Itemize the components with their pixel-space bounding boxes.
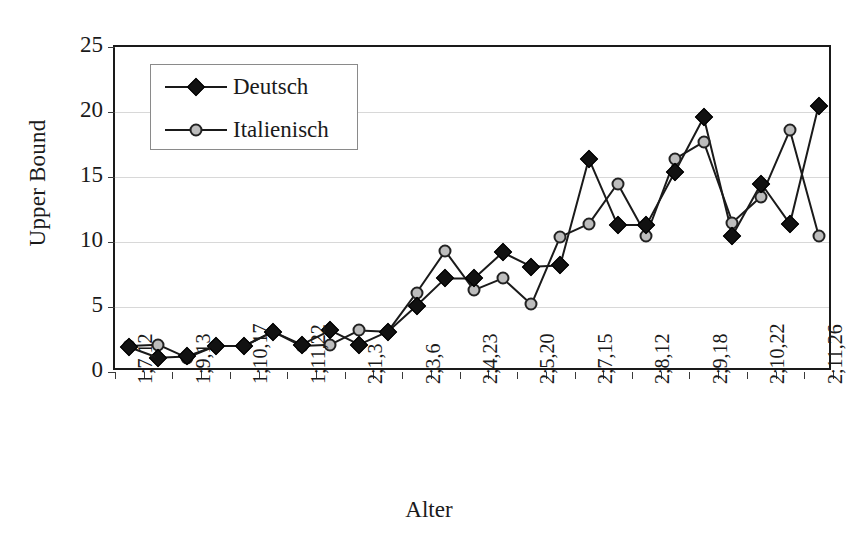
y-tick-label-10: 10 [57, 228, 103, 251]
legend-swatch-deutsch [165, 77, 227, 97]
x-tick-mark [287, 372, 288, 379]
x-tick-label-10: 2;9,18 [710, 333, 730, 384]
y-tick-label-5: 5 [57, 293, 103, 316]
line-chart: Upper Bound 0510152025 1;7,121;9,131;10,… [0, 0, 858, 543]
legend-label-deutsch: Deutsch [233, 75, 308, 98]
x-tick-label-4: 2;1,3 [365, 343, 385, 384]
x-tick-mark [517, 372, 518, 379]
x-tick-mark [345, 372, 346, 379]
legend-entry-deutsch: Deutsch [151, 65, 357, 108]
x-tick-label-9: 2;8,12 [652, 333, 672, 384]
x-tick-label-11: 2;10,22 [767, 323, 787, 384]
y-tick-label-15: 15 [57, 163, 103, 186]
x-tick-label-7: 2;5,20 [537, 333, 557, 384]
y-tick-mark [108, 47, 115, 48]
legend-entry-italienisch: Italienisch [151, 108, 357, 151]
y-tick-label-20: 20 [57, 98, 103, 121]
x-tick-mark [172, 372, 173, 379]
x-tick-mark [115, 372, 116, 379]
x-tick-label-12: 2;11,26 [825, 324, 845, 384]
x-tick-label-6: 2;4,23 [480, 333, 500, 384]
y-tick-mark [108, 372, 115, 373]
x-tick-mark [689, 372, 690, 379]
x-tick-mark [402, 372, 403, 379]
x-tick-label-3: 1;11,22 [308, 324, 328, 384]
y-tick-mark [108, 112, 115, 113]
x-tick-label-1: 1;9,13 [193, 333, 213, 384]
x-tick-mark [460, 372, 461, 379]
x-tick-mark [230, 372, 231, 379]
x-tick-mark [575, 372, 576, 379]
y-tick-label-0: 0 [57, 358, 103, 381]
y-tick-mark [108, 242, 115, 243]
x-tick-mark [632, 372, 633, 379]
x-tick-label-8: 2;7,15 [595, 333, 615, 384]
y-tick-mark [108, 177, 115, 178]
legend: Deutsch Italienisch [150, 64, 358, 150]
x-tick-label-5: 2;3,6 [423, 343, 443, 384]
y-axis-title: Upper Bound [25, 83, 51, 283]
legend-label-italienisch: Italienisch [233, 118, 329, 141]
x-tick-mark [804, 372, 805, 379]
x-tick-mark [747, 372, 748, 379]
x-tick-label-2: 1;10,17 [250, 323, 270, 384]
y-tick-mark [108, 307, 115, 308]
x-tick-label-0: 1;7,12 [135, 333, 155, 384]
legend-swatch-italienisch [165, 120, 227, 140]
x-axis-title: Alter [0, 497, 858, 523]
y-tick-label-25: 25 [57, 33, 103, 56]
